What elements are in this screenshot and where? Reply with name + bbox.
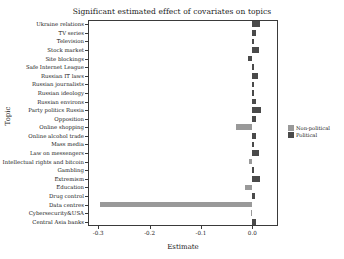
legend-item: Non-political bbox=[288, 124, 342, 131]
y-axis-tick-mark bbox=[85, 222, 88, 223]
y-axis-tick-label: Television bbox=[57, 38, 84, 44]
y-axis-tick-label: Site blockings bbox=[45, 56, 84, 62]
legend-item: Political bbox=[288, 131, 342, 138]
bar bbox=[252, 167, 254, 173]
y-axis-tick-label: Stock market bbox=[47, 47, 84, 53]
y-axis-tick-mark bbox=[85, 205, 88, 206]
x-axis-label: Estimate bbox=[88, 243, 278, 251]
y-axis-tick-label: Online shopping bbox=[39, 124, 84, 130]
y-axis-tick-mark bbox=[85, 93, 88, 94]
bar bbox=[249, 159, 253, 165]
bar bbox=[245, 185, 252, 191]
y-axis-tick-mark bbox=[85, 24, 88, 25]
y-axis-tick-label: Russian environs bbox=[37, 99, 84, 105]
x-axis-tick-mark bbox=[98, 226, 99, 229]
y-axis-tick-label: Russian ideology bbox=[38, 90, 84, 96]
y-axis-tick-label: Party politics Russia bbox=[28, 107, 84, 113]
y-axis-tick-label: Russian IT laws bbox=[41, 73, 84, 79]
y-axis-tick-mark bbox=[85, 67, 88, 68]
y-axis-tick-label: Cybersecurity&USA bbox=[29, 210, 84, 216]
bar bbox=[236, 124, 252, 130]
x-axis-tick-label: -0.2 bbox=[140, 230, 160, 236]
y-axis-tick-label: Intellectual rights and bitcoin bbox=[3, 159, 84, 165]
bar bbox=[252, 21, 259, 27]
legend-label: Non-political bbox=[296, 125, 330, 131]
y-axis-tick-mark bbox=[85, 33, 88, 34]
y-axis-tick-mark bbox=[85, 102, 88, 103]
y-axis-label: Topic bbox=[4, 92, 12, 140]
bar bbox=[252, 39, 254, 45]
y-axis-tick-label: Safe Internet League bbox=[26, 64, 84, 70]
y-axis-tick-mark bbox=[85, 127, 88, 128]
bar bbox=[252, 73, 258, 79]
x-axis-tick-label: -0.1 bbox=[191, 230, 211, 236]
bar bbox=[252, 99, 256, 105]
y-axis-tick-mark bbox=[85, 41, 88, 42]
y-axis-tick-mark bbox=[85, 119, 88, 120]
x-axis-tick-mark bbox=[201, 226, 202, 229]
legend-label: Political bbox=[296, 132, 317, 138]
y-axis-tick-mark bbox=[85, 144, 88, 145]
y-axis-tick-label: Opposition bbox=[54, 116, 84, 122]
y-axis-tick-mark bbox=[85, 50, 88, 51]
bar bbox=[252, 107, 261, 113]
y-axis-tick-mark bbox=[85, 179, 88, 180]
bar bbox=[252, 133, 256, 139]
y-axis-tick-label: Law on messengers bbox=[30, 150, 84, 156]
y-axis-tick-mark bbox=[85, 136, 88, 137]
y-axis-tick-mark bbox=[85, 153, 88, 154]
y-axis-tick-mark bbox=[85, 76, 88, 77]
chart-title: Significant estimated effect of covariat… bbox=[0, 7, 344, 16]
y-axis-tick-mark bbox=[85, 84, 88, 85]
chart-container: Significant estimated effect of covariat… bbox=[0, 0, 344, 259]
y-axis-tick-label: Online alcohol trade bbox=[28, 133, 84, 139]
y-axis-tick-label: Russian journalists bbox=[32, 81, 84, 87]
x-axis-tick-label: -0.3 bbox=[88, 230, 108, 236]
bar bbox=[252, 219, 255, 225]
y-axis-tick-label: Mass media bbox=[51, 141, 84, 147]
y-axis-tick-mark bbox=[85, 110, 88, 111]
plot-area bbox=[88, 20, 278, 226]
bar bbox=[252, 30, 256, 36]
bar bbox=[252, 47, 258, 53]
bar bbox=[252, 116, 256, 122]
legend: Non-politicalPolitical bbox=[288, 124, 342, 138]
bar bbox=[252, 82, 254, 88]
bar bbox=[252, 64, 254, 70]
y-axis-tick-mark bbox=[85, 59, 88, 60]
bar bbox=[252, 142, 254, 148]
y-axis-tick-label: Drug control bbox=[49, 193, 84, 199]
y-axis-tick-label: Education bbox=[56, 184, 84, 190]
y-axis-tick-mark bbox=[85, 196, 88, 197]
bar bbox=[252, 90, 254, 96]
y-axis-tick-label: Ukraine relations bbox=[36, 21, 84, 27]
bar bbox=[252, 193, 255, 199]
legend-swatch bbox=[288, 125, 294, 131]
y-axis-tick-label: Extremism bbox=[54, 176, 84, 182]
y-axis-tick-label: Gambling bbox=[58, 167, 84, 173]
bar bbox=[251, 210, 253, 216]
x-axis-tick-mark bbox=[252, 226, 253, 229]
y-axis-tick-label: Central Asia banks bbox=[32, 219, 84, 225]
y-axis-tick-mark bbox=[85, 187, 88, 188]
bar bbox=[100, 202, 253, 208]
x-axis-tick-mark bbox=[150, 226, 151, 229]
y-axis-tick-mark bbox=[85, 170, 88, 171]
y-axis-tick-mark bbox=[85, 213, 88, 214]
bar bbox=[248, 56, 252, 62]
legend-swatch bbox=[288, 132, 294, 138]
y-axis-tick-mark bbox=[85, 162, 88, 163]
y-axis-tick-label: TV series bbox=[59, 30, 84, 36]
x-axis-tick-label: 0.0 bbox=[242, 230, 262, 236]
y-axis-tick-label: Data centres bbox=[49, 202, 84, 208]
bar bbox=[252, 150, 258, 156]
bar bbox=[252, 176, 259, 182]
